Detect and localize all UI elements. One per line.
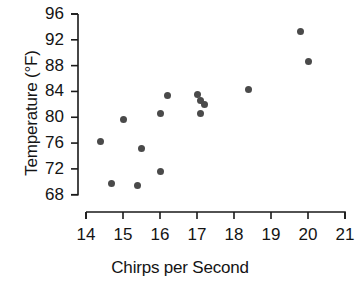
- x-tick-label-20: 20: [291, 226, 325, 243]
- data-point: [157, 110, 164, 117]
- y-tick-label-80: 80: [30, 108, 64, 125]
- y-tick-label-88: 88: [30, 57, 64, 74]
- y-tick-label-76: 76: [30, 134, 64, 151]
- data-point: [201, 101, 208, 108]
- data-point: [97, 138, 104, 145]
- y-tick-label-text: 84: [30, 82, 64, 99]
- data-point: [108, 180, 115, 187]
- data-point: [245, 86, 252, 93]
- data-point: [138, 145, 145, 152]
- y-tick-label-text: 68: [30, 186, 64, 203]
- y-tick-label-text: 92: [30, 31, 64, 48]
- y-tick-label-text: 80: [30, 108, 64, 125]
- x-tick-label-17: 17: [180, 226, 214, 243]
- y-tick-label-text: 76: [30, 134, 64, 151]
- y-tick-label-72: 72: [30, 160, 64, 177]
- y-tick-label-text: 72: [30, 160, 64, 177]
- x-tick-label-14: 14: [69, 226, 103, 243]
- data-point: [164, 92, 171, 99]
- x-axis-title: Chirps per Second: [0, 258, 360, 278]
- y-tick-label-96: 96: [30, 5, 64, 22]
- data-point: [120, 116, 127, 123]
- x-tick-label-18: 18: [217, 226, 251, 243]
- x-tick-label-15: 15: [106, 226, 140, 243]
- plot-area: 68727680848892961415161718192021: [0, 0, 360, 288]
- data-point: [305, 58, 312, 65]
- y-tick-label-92: 92: [30, 31, 64, 48]
- data-point: [157, 168, 164, 175]
- x-tick-label-16: 16: [143, 226, 177, 243]
- data-point: [297, 28, 304, 35]
- y-tick-label-84: 84: [30, 82, 64, 99]
- y-tick-label-text: 96: [30, 5, 64, 22]
- scatter-plot-figure: Temperature (°F) 68727680848892961415161…: [0, 0, 360, 288]
- data-point: [197, 110, 204, 117]
- x-tick-label-19: 19: [254, 226, 288, 243]
- y-tick-label-68: 68: [30, 186, 64, 203]
- x-tick-label-21: 21: [328, 226, 360, 243]
- y-tick-label-text: 88: [30, 57, 64, 74]
- data-point: [134, 182, 141, 189]
